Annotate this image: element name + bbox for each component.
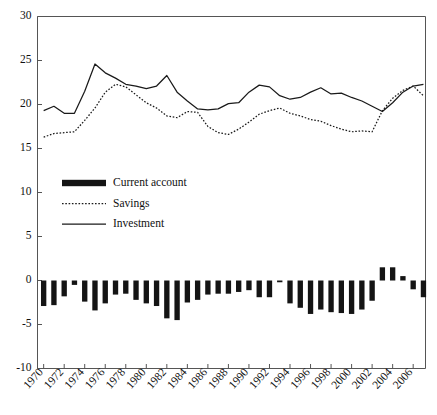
bar: [380, 267, 385, 280]
y-tick-label: 25: [20, 53, 32, 65]
bar: [308, 281, 313, 314]
y-tick-label: 30: [20, 9, 32, 21]
x-tick-label: 1976: [82, 366, 106, 391]
bar: [226, 281, 231, 294]
bar: [369, 281, 374, 301]
bar: [92, 281, 97, 311]
bar: [51, 281, 56, 306]
bar: [113, 281, 118, 295]
current-account-bars: [41, 267, 426, 320]
bar: [246, 281, 251, 291]
bar: [144, 281, 149, 304]
bar: [411, 281, 416, 290]
bar: [390, 267, 395, 280]
x-axis-tick-labels: 1970197219741976197819801982198419861988…: [21, 366, 415, 391]
savings-path: [44, 84, 424, 137]
bar: [277, 281, 282, 283]
y-tick-label: 20: [20, 97, 32, 109]
bar: [41, 281, 46, 307]
bar: [133, 281, 138, 300]
legend-swatch-current-account: [62, 180, 106, 186]
y-tick-label: 15: [20, 141, 32, 153]
bar: [205, 281, 210, 295]
bar: [62, 281, 67, 297]
bar: [215, 281, 220, 294]
x-tick-label: 1990: [226, 366, 250, 391]
legend-label: Investment: [113, 217, 165, 229]
x-tick-label: 2006: [390, 366, 414, 391]
y-tick-label: 10: [20, 185, 32, 197]
legend-label: Current account: [113, 176, 188, 188]
y-tick-label: 5: [26, 229, 32, 241]
y-tick-label: -10: [16, 361, 32, 373]
x-tick-label: 1992: [247, 366, 271, 391]
x-tick-label: 1978: [103, 366, 127, 391]
x-tick-label: 1980: [123, 366, 147, 391]
bar: [164, 281, 169, 319]
x-tick-label: 1988: [206, 366, 230, 391]
savings-investment-current-account-chart: -10-5051015202530 1970197219741976197819…: [0, 0, 437, 415]
bar: [339, 281, 344, 314]
bar: [185, 281, 190, 303]
y-axis-tick-labels: -10-5051015202530: [16, 9, 32, 373]
bar: [72, 281, 77, 285]
x-tick-label: 1984: [165, 366, 189, 391]
bar: [359, 281, 364, 310]
bar: [421, 281, 426, 298]
bar: [287, 281, 292, 304]
bar: [103, 281, 108, 304]
bar: [267, 281, 272, 298]
y-axis-ticks: [38, 17, 43, 369]
x-tick-label: 1982: [144, 366, 168, 391]
x-tick-label: 1994: [267, 366, 291, 391]
x-tick-label: 1996: [288, 366, 312, 391]
bar: [257, 281, 262, 298]
bar: [349, 281, 354, 314]
plot-border: [38, 17, 426, 369]
legend-label: Savings: [113, 197, 150, 210]
chart-container: -10-5051015202530 1970197219741976197819…: [0, 0, 437, 415]
bar: [328, 281, 333, 313]
investment-path: [44, 64, 424, 113]
bar: [318, 281, 323, 310]
bar: [236, 281, 241, 292]
bar: [174, 281, 179, 321]
x-tick-label: 2004: [370, 366, 394, 391]
x-tick-label: 1998: [308, 366, 332, 391]
bar: [400, 276, 405, 280]
plot-frame: [38, 17, 426, 369]
x-tick-label: 1972: [41, 366, 65, 391]
investment-line: [44, 64, 424, 113]
bar: [154, 281, 159, 307]
savings-line: [44, 84, 424, 137]
bar: [195, 281, 200, 300]
y-tick-label: 0: [26, 273, 32, 285]
chart-legend: Current accountSavingsInvestment: [62, 176, 188, 229]
x-tick-label: 2002: [349, 366, 373, 391]
x-tick-label: 1974: [62, 366, 86, 391]
bar: [82, 281, 87, 302]
bar: [123, 281, 128, 294]
bar: [298, 281, 303, 308]
x-tick-label: 1986: [185, 366, 209, 391]
y-tick-label: -5: [22, 317, 32, 329]
x-tick-label: 2000: [329, 366, 353, 391]
